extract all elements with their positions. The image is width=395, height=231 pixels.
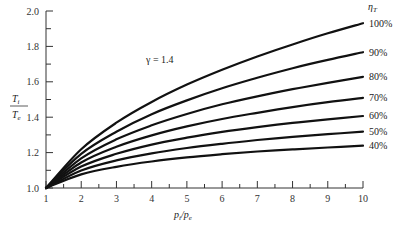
y-label-denominator: Te [12,109,21,122]
series-label: 80% [369,71,387,82]
x-tick-label: 3 [114,193,119,204]
y-tick-label: 1.8 [27,41,40,52]
legend-title-eta: ηT [368,1,378,14]
x-tick-label: 4 [149,193,154,204]
x-tick-label: 7 [255,193,260,204]
series-label: 40% [369,140,387,151]
gamma-annotation: γ = 1.4 [145,54,174,65]
curve-70pct [46,98,363,188]
x-tick-label: 8 [290,193,295,204]
series-label: 60% [369,110,387,121]
series-label: 70% [369,92,387,103]
y-tick-label: 1.4 [27,112,40,123]
axes: 1.01.21.41.61.82.012345678910 [27,6,369,205]
x-axis-label: pi/pe [173,209,192,222]
efficiency-temperature-ratio-chart: 1.01.21.41.61.82.012345678910 100%90%80%… [0,0,395,231]
y-tick-label: 2.0 [27,6,40,17]
x-tick-label: 5 [184,193,189,204]
x-tick-label: 9 [325,193,330,204]
series-label: 100% [369,18,392,29]
x-tick-label: 6 [220,193,225,204]
y-tick-label: 1.0 [27,183,40,194]
y-axis-label: Ti Te [10,93,28,122]
y-tick-label: 1.2 [27,147,40,158]
y-label-numerator: Ti [12,93,20,106]
series-label: 50% [369,126,387,137]
x-tick-label: 10 [358,193,368,204]
x-tick-label: 1 [44,193,49,204]
x-tick-label: 2 [79,193,84,204]
y-tick-label: 1.6 [27,76,40,87]
curve-100pct [46,23,363,188]
curves: 100%90%80%70%60%50%40% [46,18,392,188]
series-label: 90% [369,47,387,58]
